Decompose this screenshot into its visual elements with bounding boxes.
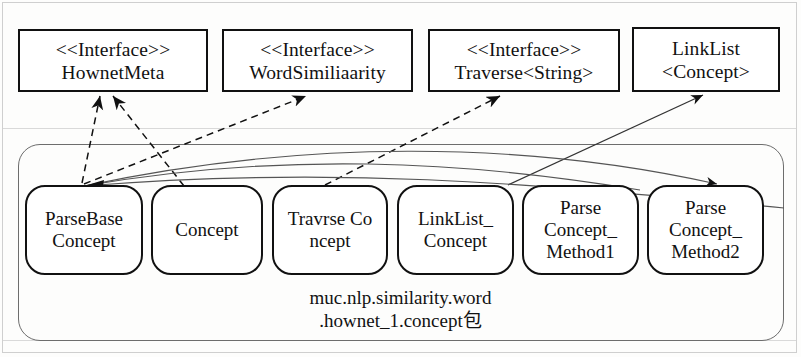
class-node-label-line1: LinkList_: [418, 208, 493, 230]
interface-stereotype: <<Interface>>: [260, 38, 375, 61]
class-name: LinkList: [672, 37, 740, 60]
class-node-label-line1: Travrse Co: [288, 208, 372, 230]
interface-name: HownetMeta: [62, 61, 165, 84]
interface-box-traverse-string[interactable]: <<Interface>> Traverse<String>: [428, 29, 620, 92]
class-node-label-line2: Concept: [424, 230, 487, 252]
class-node-label-line1: Concept: [175, 219, 238, 241]
package-label-line2: .hownet_1.concept包: [0, 310, 801, 333]
class-node-label-line1: Parse: [685, 197, 726, 219]
class-box-linklist-concept[interactable]: LinkList <Concept>: [632, 27, 780, 92]
class-node-parseconcept-method1[interactable]: Parse Concept_ Method1: [522, 185, 639, 275]
class-node-parsebaseconcept[interactable]: ParseBase Concept: [25, 185, 143, 275]
class-type-parameter: <Concept>: [662, 60, 750, 83]
class-node-label-line1: Parse: [560, 197, 601, 219]
interface-name: Traverse<String>: [455, 61, 594, 84]
interface-stereotype: <<Interface>>: [467, 38, 582, 61]
class-node-linklist-concept[interactable]: LinkList_ Concept: [397, 185, 514, 275]
class-node-label-line3: Method1: [546, 241, 615, 263]
class-node-label-line2: Concept_: [544, 219, 617, 241]
class-node-label-line3: Method2: [671, 241, 740, 263]
scan-artifact-line-top: [3, 128, 796, 129]
class-node-label-line2: Concept_: [669, 219, 742, 241]
interface-box-hownetmeta[interactable]: <<Interface>> HownetMeta: [18, 29, 208, 92]
class-node-concept[interactable]: Concept: [151, 185, 263, 275]
interface-box-wordsimiliaarity[interactable]: <<Interface>> WordSimiliaarity: [222, 29, 413, 92]
class-node-travrseconcept[interactable]: Travrse Co ncept: [272, 185, 388, 275]
class-node-label-line2: Concept: [52, 230, 115, 252]
interface-stereotype: <<Interface>>: [56, 38, 171, 61]
class-node-label-line2: ncept: [309, 230, 350, 252]
class-node-parseconcept-method2[interactable]: Parse Concept_ Method2: [647, 185, 764, 275]
uml-class-diagram-canvas: <<Interface>> HownetMeta <<Interface>> W…: [0, 0, 801, 357]
package-label-line1: muc.nlp.similarity.word: [0, 287, 801, 310]
interface-name: WordSimiliaarity: [249, 61, 386, 84]
package-label: muc.nlp.similarity.word .hownet_1.concep…: [0, 287, 801, 333]
class-node-label-line1: ParseBase: [45, 208, 123, 230]
